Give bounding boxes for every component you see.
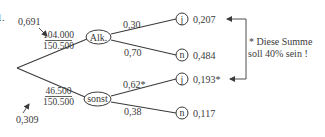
edge-label-alk-n: 0,70 — [124, 47, 142, 58]
note-line-1: * Diese Summe — [249, 36, 313, 47]
path-probability-sonst-n: 0,117 — [193, 108, 215, 119]
path-probability-sonst-j: 0,193* — [193, 74, 221, 85]
path-probability-alk-n: 0,484 — [193, 50, 216, 61]
sonst-fraction-numerator: 46.500 — [45, 86, 71, 96]
arrow-sonst-probability — [23, 104, 29, 113]
item-number: 1. — [0, 12, 5, 23]
note-line-2: soll 40% sein ! — [248, 48, 308, 59]
edge-alk-n — [111, 40, 176, 55]
sonst-probability: 0,309 — [16, 114, 39, 125]
path-probability-alk-j: 0,207 — [193, 14, 216, 25]
edge-label-sonst-n: 0,38 — [124, 106, 142, 117]
node-alk-label: Alk. — [90, 32, 108, 43]
edge-sonst-n — [111, 102, 176, 113]
alk-probability: 0,691 — [18, 16, 41, 27]
leaf-sonst-n-label: n — [180, 107, 185, 118]
leaf-alk-n-label: n — [180, 49, 185, 60]
node-sonst-label: sonst — [87, 93, 108, 104]
edge-label-sonst-j: 0,62* — [123, 79, 146, 90]
leaf-sonst-j-label: j — [180, 74, 184, 85]
edge-label-alk-j: 0,30 — [123, 19, 141, 30]
sonst-fraction-denominator: 150.500 — [43, 97, 74, 107]
edge-alk-j — [111, 19, 176, 34]
alk-fraction-denominator: 150.500 — [43, 41, 74, 51]
probability-tree-diagram: 1. 0,691 104.000 150.500 46.500 150.500 … — [0, 0, 325, 137]
leaf-alk-j-label: j — [180, 14, 184, 25]
alk-fraction-numerator: 104.000 — [43, 30, 74, 40]
